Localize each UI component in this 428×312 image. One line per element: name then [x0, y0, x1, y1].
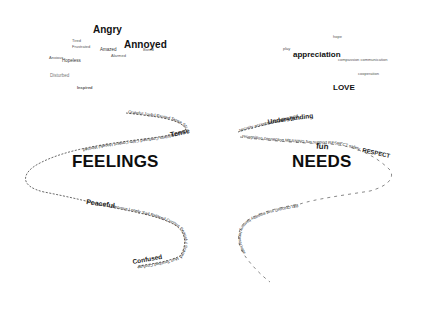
- needs-word-compassion-communication: compassion communication: [338, 58, 387, 62]
- feelings-word-anxious: Anxious: [49, 56, 63, 60]
- needs-path-words-middle: recognition connection MEANING fun suppo…: [242, 133, 362, 151]
- feelings-word-disturbed: Disturbed: [50, 74, 69, 79]
- needs-highlight-fun: fun: [316, 143, 329, 152]
- needs-word-love: LOVE: [333, 84, 355, 92]
- feelings-word-hopeless: Hopeless: [62, 59, 81, 64]
- feelings-needs-diagram: Grateful Joyful Excited Tense Stressed H…: [0, 0, 428, 312]
- feelings-word-bored: Bored: [143, 48, 154, 52]
- feelings-word-amazed: Amazed: [100, 48, 117, 53]
- spiral-paths: Grateful Joyful Excited Tense Stressed H…: [0, 0, 428, 312]
- feelings-word-tired: Tired: [72, 39, 81, 43]
- feelings-word-alarmed: Alarmed: [111, 54, 126, 58]
- needs-path-words-lower: BELONGING trust empathy harmony honesty …: [238, 203, 299, 255]
- feelings-title: FEELINGS: [72, 152, 159, 172]
- needs-highlight-understanding: Understanding: [267, 112, 314, 126]
- needs-word-appreciation: appreciation: [293, 51, 341, 59]
- feelings-word-inspired: Inspired: [77, 86, 93, 90]
- needs-word-play: play: [283, 47, 290, 51]
- feelings-word-angry: Angry: [93, 25, 122, 35]
- needs-word-cooperation: cooperation: [358, 72, 379, 76]
- feelings-highlight-peaceful: Peaceful: [86, 198, 116, 209]
- feelings-word-frustrated: Frustrated: [72, 45, 90, 49]
- needs-word-hope: hope: [333, 35, 342, 39]
- needs-title: NEEDS: [292, 152, 352, 172]
